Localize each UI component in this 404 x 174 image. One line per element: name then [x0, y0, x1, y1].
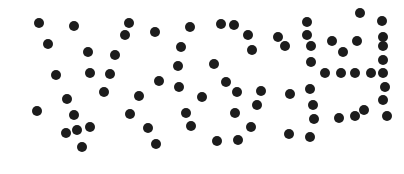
- captcha-dot: [306, 41, 316, 51]
- captcha-dot: [72, 125, 82, 135]
- captcha-dot: [302, 30, 312, 40]
- captcha-dot: [120, 30, 130, 40]
- captcha-dot: [209, 59, 219, 69]
- captcha-dot: [151, 139, 161, 149]
- captcha-dot: [61, 128, 71, 138]
- captcha-dot: [230, 108, 240, 118]
- captcha-dot: [355, 8, 365, 18]
- captcha-dot: [105, 69, 115, 79]
- captcha-dot: [32, 106, 42, 116]
- captcha-dot: [43, 39, 53, 49]
- captcha-dot: [380, 82, 390, 92]
- captcha-dot: [309, 114, 319, 124]
- captcha-dot: [280, 41, 290, 51]
- captcha-dot: [359, 105, 369, 115]
- captcha-dot: [382, 111, 392, 121]
- captcha-dot: [83, 47, 93, 57]
- captcha-dot: [154, 76, 164, 86]
- captcha-dot: [197, 92, 207, 102]
- captcha-dot: [181, 108, 191, 118]
- captcha-dot: [229, 20, 239, 30]
- captcha-dot: [221, 77, 231, 87]
- captcha-description: Dotted-pattern CAPTCHA image: [0, 0, 1, 1]
- captcha-dot: [378, 41, 388, 51]
- captcha-image: Dotted-pattern CAPTCHA image: [0, 0, 404, 174]
- captcha-dot: [336, 68, 346, 78]
- captcha-dot: [34, 18, 44, 28]
- captcha-dot: [284, 129, 294, 139]
- captcha-dot: [366, 68, 376, 78]
- captcha-dot: [216, 19, 226, 29]
- captcha-dot: [306, 57, 316, 67]
- captcha-dot: [305, 84, 315, 94]
- captcha-dot: [176, 42, 186, 52]
- captcha-dot: [305, 132, 315, 142]
- captcha-dot: [378, 95, 388, 105]
- captcha-dot: [285, 89, 295, 99]
- captcha-dot: [62, 94, 72, 104]
- captcha-dot: [378, 55, 388, 65]
- captcha-dot: [173, 61, 183, 71]
- captcha-dot: [256, 86, 266, 96]
- captcha-dot: [85, 68, 95, 78]
- captcha-dot: [150, 27, 160, 37]
- captcha-dot: [246, 122, 256, 132]
- captcha-dot: [273, 32, 283, 42]
- captcha-dot: [377, 16, 387, 26]
- captcha-dot: [143, 123, 153, 133]
- captcha-dot: [124, 18, 134, 28]
- captcha-dot: [350, 68, 360, 78]
- captcha-dot: [110, 50, 120, 60]
- captcha-dot: [69, 110, 79, 120]
- captcha-dot: [51, 70, 61, 80]
- captcha-dot: [327, 36, 337, 46]
- captcha-dot: [350, 111, 360, 121]
- captcha-dot: [252, 100, 262, 110]
- captcha-dot: [186, 121, 196, 131]
- captcha-dot: [134, 91, 144, 101]
- captcha-dot: [378, 68, 388, 78]
- captcha-dot: [212, 136, 222, 146]
- captcha-dot: [232, 87, 242, 97]
- captcha-dot: [85, 122, 95, 132]
- captcha-dot: [338, 47, 348, 57]
- captcha-dot: [125, 109, 135, 119]
- captcha-dot: [352, 36, 362, 46]
- captcha-dot: [247, 45, 257, 55]
- captcha-dot: [99, 87, 109, 97]
- captcha-dot: [243, 30, 253, 40]
- captcha-dot: [308, 100, 318, 110]
- captcha-dot: [185, 22, 195, 32]
- captcha-dot: [302, 17, 312, 27]
- captcha-dot: [334, 113, 344, 123]
- captcha-dot: [69, 21, 79, 31]
- captcha-dot: [174, 82, 184, 92]
- captcha-dot: [233, 135, 243, 145]
- captcha-dot: [320, 68, 330, 78]
- captcha-dot: [77, 142, 87, 152]
